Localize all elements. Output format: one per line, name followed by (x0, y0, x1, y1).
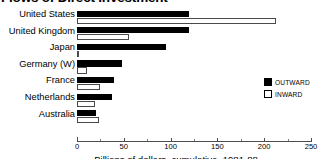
x-axis-tick (311, 138, 312, 141)
x-axis-tick (264, 138, 265, 141)
x-axis-line (77, 141, 312, 142)
bar-inward (77, 18, 276, 24)
x-axis-tick (77, 138, 78, 141)
bar-inward (77, 117, 99, 123)
bar-outward (77, 94, 112, 100)
bar-outward (77, 110, 96, 116)
bar-row: Germany (W) (0, 60, 326, 76)
bar-outward (77, 11, 189, 17)
x-axis-tick (217, 138, 218, 141)
page-title: Flows of Direct Investment (1, 0, 168, 5)
bar-inward (77, 51, 79, 57)
bar-inward (77, 84, 100, 90)
bar-row: Australia (0, 110, 326, 126)
legend-swatch-filled-square-icon (264, 78, 272, 86)
bar-row: United States (0, 10, 326, 26)
bar-outward (77, 77, 114, 83)
bar-outward (77, 27, 189, 33)
x-axis-minor-tick (100, 139, 101, 141)
x-axis-tick (124, 138, 125, 141)
x-axis-tick (171, 138, 172, 141)
x-axis-tick-label: 150 (202, 143, 232, 151)
bar-row: United Kingdom (0, 27, 326, 43)
plot-area: United States United Kingdom Japan Ger (0, 10, 326, 130)
x-axis-tick-label: 50 (109, 143, 139, 151)
category-label: France (0, 76, 75, 85)
bar-inward (77, 101, 95, 107)
x-axis-tick-label: 100 (156, 143, 186, 151)
direct-investment-bar-chart: Flows of Direct Investment United States… (0, 0, 326, 159)
chart-title-clipped: Flows of Direct Investment (0, 0, 200, 5)
x-axis-tick-label: 0 (62, 143, 92, 151)
x-axis-minor-tick (194, 139, 195, 141)
x-axis-minor-tick (147, 139, 148, 141)
x-axis-caption: Billions of dollars, cumulative, 1981-88 (0, 154, 326, 159)
x-axis-minor-tick (241, 139, 242, 141)
x-axis-tick-label: 250 (296, 143, 326, 151)
bar-inward (77, 67, 87, 73)
bar-row: Japan (0, 43, 326, 59)
bar-inward (77, 34, 129, 40)
category-label: United States (0, 10, 75, 19)
category-label: Germany (W) (0, 60, 75, 69)
legend-swatch-hollow-square-icon (264, 90, 272, 98)
x-axis-tick-label: 200 (249, 143, 279, 151)
legend-label: OUTWARD (275, 79, 310, 86)
category-label: United Kingdom (0, 27, 75, 36)
category-label: Netherlands (0, 93, 75, 102)
category-label: Japan (0, 43, 75, 52)
x-axis-minor-tick (288, 139, 289, 141)
bar-outward (77, 60, 122, 66)
category-label: Australia (0, 110, 75, 119)
bar-outward (77, 44, 166, 50)
legend-label: INWARD (275, 91, 302, 98)
